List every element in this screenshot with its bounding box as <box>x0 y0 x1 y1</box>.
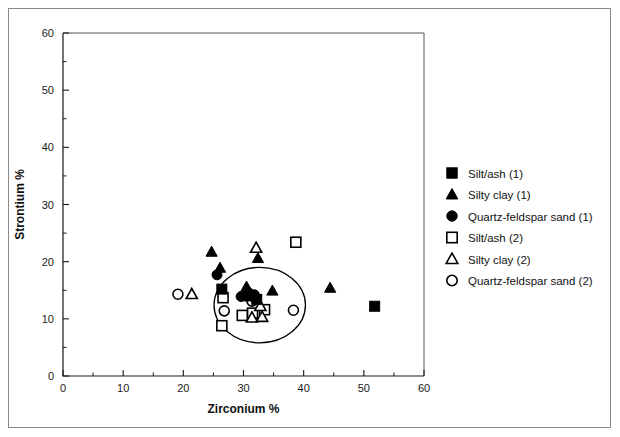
figure-border <box>8 8 611 428</box>
scatter-plot-figure: 01020304050600102030405060 Silt/ash (1)S… <box>0 0 620 437</box>
